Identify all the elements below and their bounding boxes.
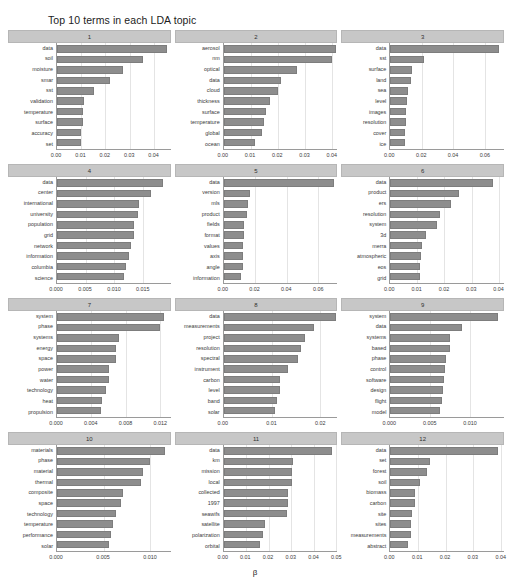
plot-area [223, 177, 338, 284]
bar-row [390, 541, 504, 549]
x-axis: 0.000.010.020.030.040.05 [175, 552, 338, 564]
y-axis-tick-labels: datasoilmoisturesmarsstvalidationtempera… [8, 43, 56, 150]
bar [57, 273, 124, 281]
y-tick-label: seawifs [202, 512, 220, 517]
facet-strip-label: 6 [421, 168, 424, 174]
y-tick-label: mls [211, 201, 219, 206]
bar [224, 139, 256, 147]
bar-row [224, 541, 338, 549]
bar-row [390, 355, 504, 363]
bar [390, 200, 451, 208]
y-tick-label: surface [369, 67, 387, 72]
x-tick-label: 0.01 [240, 554, 251, 560]
x-tick-label: 0.01 [266, 420, 277, 426]
bar [57, 345, 116, 353]
bar-row [57, 262, 171, 270]
bar-row [57, 179, 171, 187]
x-tick-label: 0.012 [153, 420, 167, 426]
y-tick-label: set [46, 142, 53, 147]
facet-body: datacenterinternationaluniversitypopulat… [8, 177, 171, 284]
bar [57, 447, 165, 455]
y-tick-label: site [378, 512, 386, 517]
bar [390, 77, 410, 85]
bar-row [224, 365, 338, 373]
bar [57, 355, 116, 363]
x-axis: 0.000.020.040.06 [175, 284, 338, 296]
y-tick-label: measurements [351, 533, 387, 538]
y-axis-tick-labels: dataversionmlsproductfieldsformatvaluesa… [175, 177, 223, 284]
bar [57, 468, 143, 476]
bar-row [57, 468, 171, 476]
bar [224, 211, 248, 219]
bar [57, 56, 143, 64]
bar-row [224, 179, 338, 187]
bar [390, 273, 420, 281]
x-axis-spacer [8, 150, 56, 162]
x-tick-label: 0.010 [463, 420, 477, 426]
x-tick-label: 0.02 [440, 554, 451, 560]
x-axis-title: β [0, 568, 510, 577]
bar-row [57, 324, 171, 332]
facet-strip-label: 4 [88, 168, 91, 174]
y-tick-label: product [202, 212, 220, 217]
y-tick-label: measurements [184, 324, 220, 329]
bar-row [390, 273, 504, 281]
bar-row [390, 376, 504, 384]
x-tick-label: 0.04 [495, 554, 506, 560]
bar [224, 345, 301, 353]
bar [390, 510, 412, 518]
bar-row [390, 365, 504, 373]
bar-row [224, 45, 338, 53]
bar-row [57, 499, 171, 507]
x-tick-label: 0.06 [313, 286, 324, 292]
facet-body: materialsphasematerialthermalcompositesp… [8, 445, 171, 552]
bar-row [390, 447, 504, 455]
x-tick-label: 0.000 [49, 554, 63, 560]
bar [390, 479, 420, 487]
y-tick-label: sst [46, 88, 53, 93]
x-axis: 0.0000.0050.010 [341, 418, 504, 430]
y-tick-label: model [372, 410, 387, 415]
y-tick-label: solar [208, 410, 220, 415]
facet-panel: 11datakmmissionlocalcollected1997seawifs… [175, 432, 338, 564]
y-tick-label: flight [375, 399, 386, 404]
y-tick-label: grid [44, 233, 53, 238]
y-tick-label: systems [33, 335, 53, 340]
y-tick-label: university [30, 212, 53, 217]
x-tick-label: 0.04 [281, 286, 292, 292]
bar [57, 211, 138, 219]
y-tick-label: smar [41, 78, 53, 83]
y-tick-label: product [368, 190, 386, 195]
bar [390, 263, 420, 271]
y-tick-label: systems [367, 335, 387, 340]
y-tick-label: mission [201, 469, 219, 474]
y-tick-label: band [208, 399, 220, 404]
bar-row [224, 66, 338, 74]
bar-row [57, 355, 171, 363]
x-tick-label: 0.04 [448, 152, 459, 158]
facet-strip-label: 3 [421, 34, 424, 40]
x-axis-tick-labels: 0.000.010.02 [223, 418, 338, 430]
bar-row [224, 231, 338, 239]
bar [390, 499, 415, 507]
bar-row [224, 478, 338, 486]
x-axis-tick-labels: 0.000.020.040.06 [223, 284, 338, 296]
y-axis-tick-labels: datacenterinternationaluniversitypopulat… [8, 177, 56, 284]
x-axis: 0.000.020.040.06 [341, 150, 504, 162]
bar-row [224, 376, 338, 384]
bar-row [390, 66, 504, 74]
x-tick-label: 0.02 [315, 420, 326, 426]
bar-row [224, 510, 338, 518]
bar [224, 108, 267, 116]
y-tick-label: fields [207, 222, 220, 227]
y-tick-label: data [209, 78, 220, 83]
bar-row [57, 386, 171, 394]
bar [390, 458, 429, 466]
facet-strip-label: 2 [254, 34, 257, 40]
y-tick-label: water [40, 378, 53, 383]
facet-body: systemdatasystemsbasedphasecontrolsoftwa… [341, 311, 504, 418]
bar [390, 520, 411, 528]
x-tick-label: 0.03 [299, 152, 310, 158]
y-tick-label: axis [210, 254, 220, 259]
bar-row [57, 396, 171, 404]
